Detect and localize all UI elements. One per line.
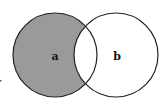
set-a-label: a (51, 50, 58, 63)
set-b-label: b (113, 50, 121, 63)
stray-mark (0, 80, 2, 82)
venn-diagram: a b (0, 0, 163, 110)
